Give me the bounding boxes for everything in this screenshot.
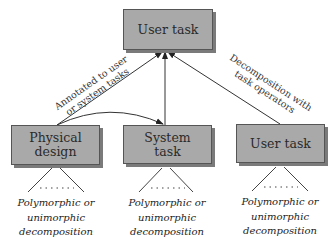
caption-line: Polymorphic or xyxy=(6,196,106,211)
caption-line: unimorphic xyxy=(6,211,106,226)
caption-line: unimorphic xyxy=(230,210,330,225)
node-system-task: System task xyxy=(123,125,212,164)
node-top-user-task: User task xyxy=(123,9,213,50)
decomposition-right xyxy=(252,167,308,191)
caption-line: Polymorphic or xyxy=(117,196,217,211)
node-label: Physical design xyxy=(26,131,85,159)
caption-line: Polymorphic or xyxy=(230,195,330,210)
node-label: System task xyxy=(144,131,191,159)
caption-line: decomposition xyxy=(230,224,330,237)
caption-line: decomposition xyxy=(117,225,217,237)
caption-middle: Polymorphic or unimorphic decomposition xyxy=(117,196,217,237)
decomposition-left xyxy=(28,168,84,192)
node-label: User task xyxy=(250,137,311,151)
caption-right: Polymorphic or unimorphic decomposition xyxy=(230,195,330,237)
node-label: User task xyxy=(138,23,199,37)
decomposition-middle xyxy=(139,168,193,192)
caption-line: decomposition xyxy=(6,225,106,237)
node-physical-design: Physical design xyxy=(11,125,100,165)
node-right-user-task: User task xyxy=(236,124,325,163)
caption-line: unimorphic xyxy=(117,211,217,226)
caption-left: Polymorphic or unimorphic decomposition xyxy=(6,196,106,237)
